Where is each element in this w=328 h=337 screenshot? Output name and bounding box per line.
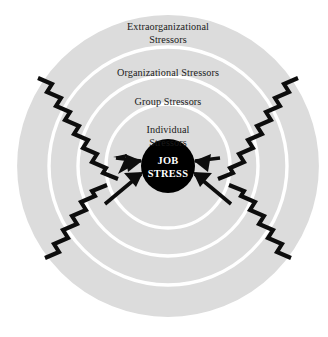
core-label-line2: STRESS (148, 168, 189, 179)
label-extraorganizational-line1: Extraorganizational (127, 21, 209, 32)
label-extraorganizational-line2: Stressors (149, 34, 187, 45)
concentric-stress-diagram: JOB STRESS Extraorganizational Stressors… (0, 0, 328, 337)
core-label-line1: JOB (157, 155, 178, 166)
label-individual-line2: Stressors (149, 137, 187, 148)
label-organizational: Organizational Stressors (117, 67, 219, 78)
label-group: Group Stressors (135, 96, 202, 107)
label-individual-line1: Individual (147, 124, 190, 135)
stress-diagram-canvas: JOB STRESS Extraorganizational Stressors… (0, 0, 328, 337)
